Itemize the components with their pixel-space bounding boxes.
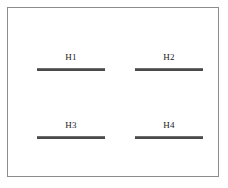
bar-line-h1[interactable] [37,68,105,71]
bar-line-h2[interactable] [135,68,203,71]
bar-group-h1[interactable]: H1 [37,52,105,74]
bar-line-h4[interactable] [135,136,203,139]
bar-group-h4[interactable]: H4 [135,120,203,142]
diagram-canvas: H1 H2 H3 H4 [0,0,228,188]
bar-label-h4: H4 [135,120,203,131]
bar-label-h3: H3 [37,120,105,131]
bar-group-h2[interactable]: H2 [135,52,203,74]
bar-label-h1: H1 [37,52,105,63]
bar-label-h2: H2 [135,52,203,63]
bar-line-h3[interactable] [37,136,105,139]
panel-frame: H1 H2 H3 H4 [7,7,219,177]
bar-group-h3[interactable]: H3 [37,120,105,142]
